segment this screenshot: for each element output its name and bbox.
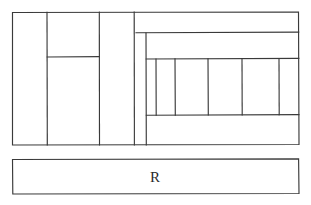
divider-right-band-mid	[146, 58, 299, 59]
main-rect-group	[13, 12, 300, 145]
divider-right-band-top	[136, 32, 299, 33]
divider-right-band-bottom	[146, 115, 299, 116]
bottom-bar-label: R	[150, 169, 160, 185]
bottom-bar-group: R	[13, 159, 300, 194]
partition-diagram: R	[0, 0, 311, 205]
diagram-canvas: R	[0, 0, 311, 205]
sub-cell-dividers	[156, 59, 279, 116]
